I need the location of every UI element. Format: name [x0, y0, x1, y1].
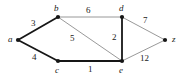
vertex-label-e: e: [119, 66, 123, 75]
vertex-c: [56, 59, 60, 63]
edge-weight-a-b: 3: [31, 19, 36, 28]
edge-weight-e-z: 12: [140, 54, 149, 63]
edge-weight-b-d: 6: [86, 6, 91, 15]
vertex-label-d: d: [119, 4, 124, 13]
vertex-label-c: c: [55, 66, 59, 75]
vertex-z: [163, 38, 167, 42]
vertex-d: [120, 15, 124, 19]
vertex-a: [16, 38, 20, 42]
edge-a-c: [18, 40, 58, 61]
edge-weight-a-c: 4: [32, 53, 37, 62]
vertex-b: [56, 15, 60, 19]
vertex-e: [120, 59, 124, 63]
graph-figure: 346512712abcdez: [0, 0, 185, 83]
edge-weight-b-e: 5: [70, 34, 75, 43]
vertex-label-a: a: [8, 35, 13, 44]
vertex-label-z: z: [172, 35, 176, 44]
edge-a-b: [18, 17, 58, 40]
edge-weight-d-e: 2: [112, 33, 117, 42]
graph-canvas: [0, 0, 185, 83]
edge-weight-c-e: 1: [88, 65, 93, 74]
vertex-label-b: b: [54, 4, 59, 13]
edge-weight-d-z: 7: [143, 16, 148, 25]
